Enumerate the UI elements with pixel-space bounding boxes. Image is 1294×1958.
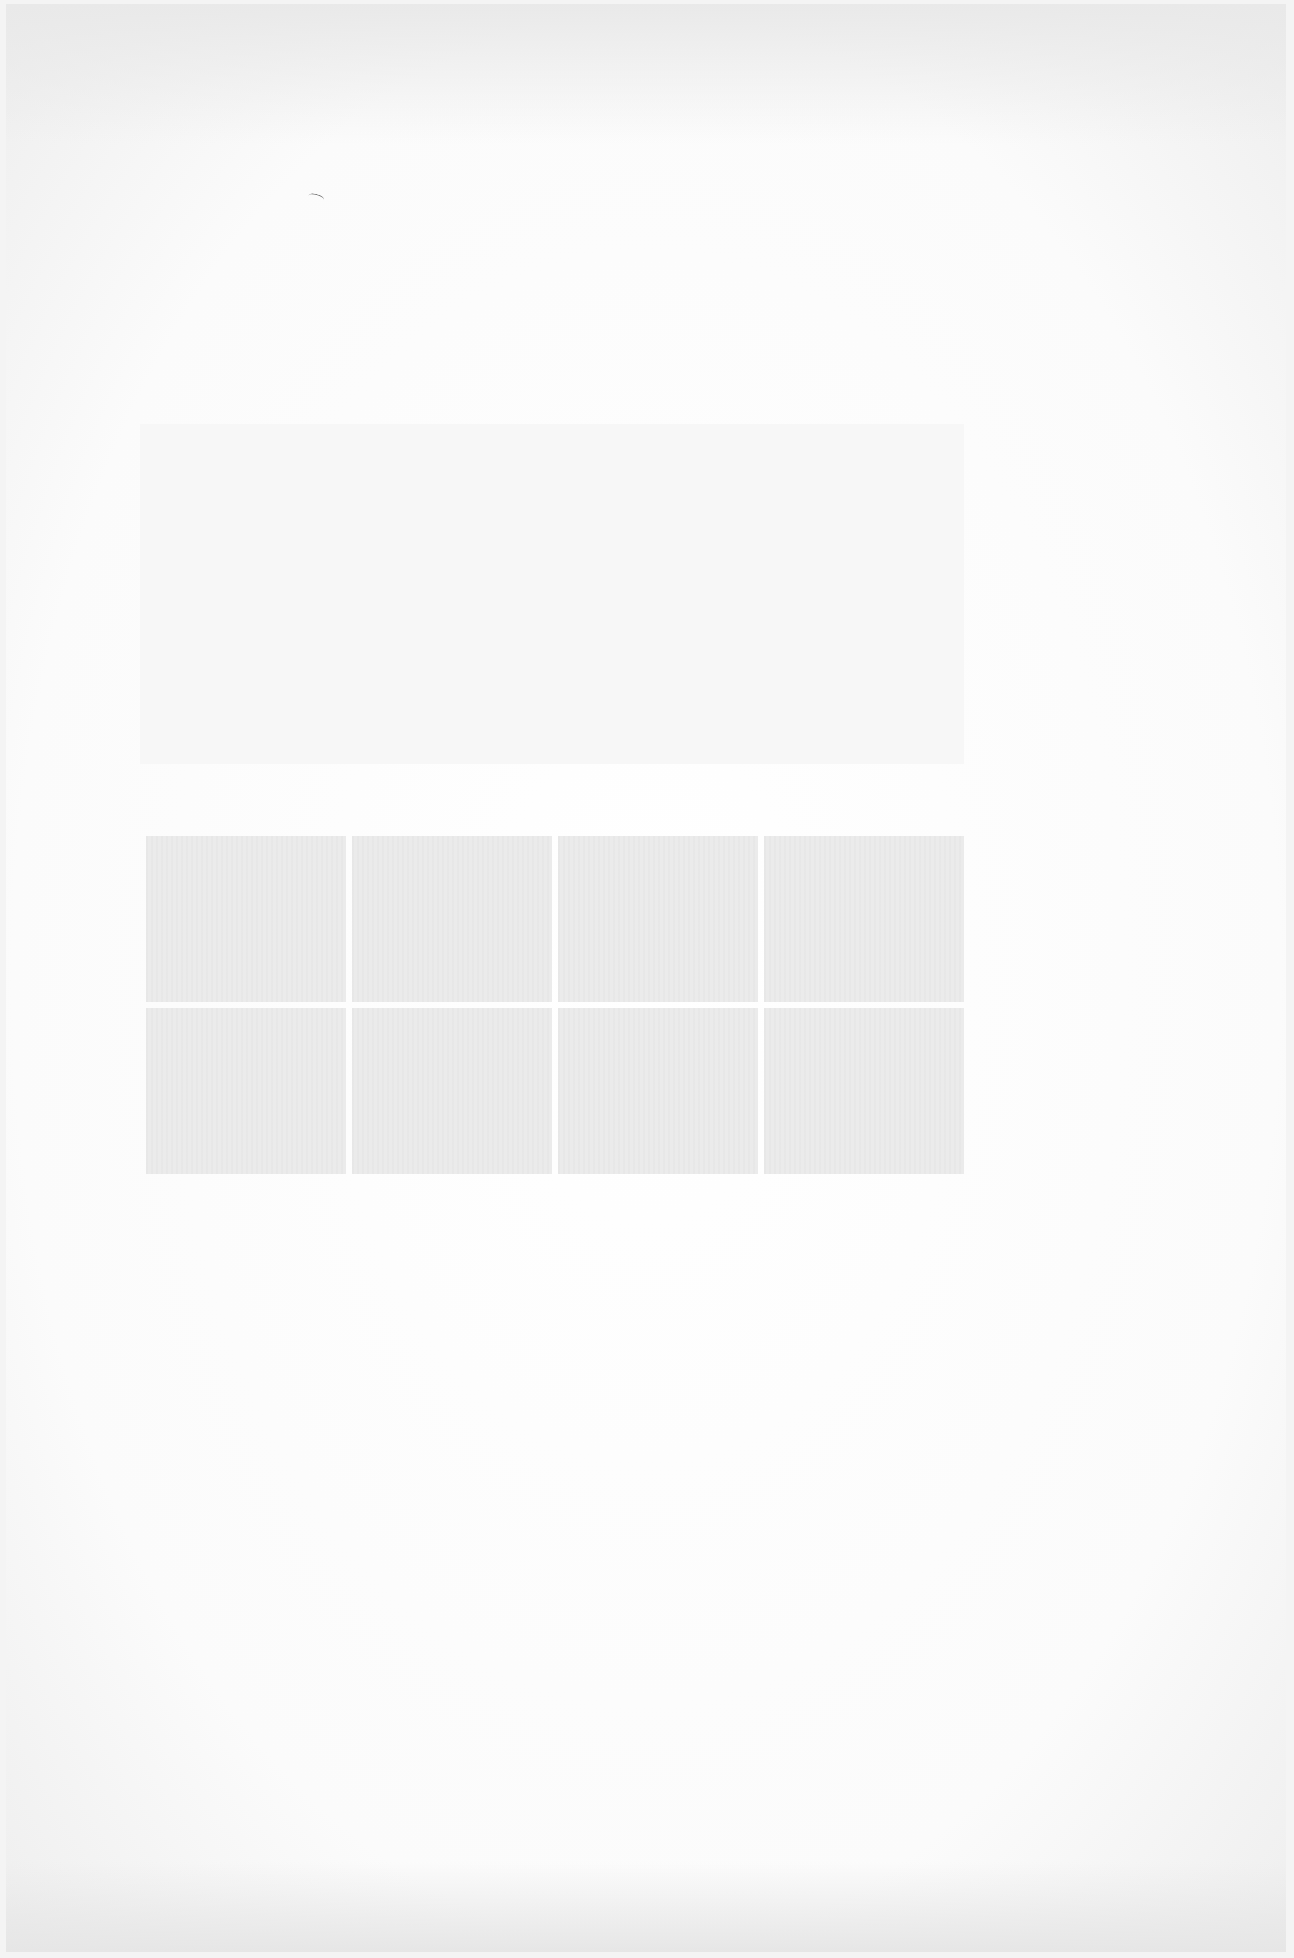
- stray-pen-mark: [307, 192, 324, 203]
- panel: [764, 836, 964, 1002]
- panel: [558, 836, 758, 1002]
- panel: [352, 1008, 552, 1174]
- panel: [352, 836, 552, 1002]
- scanned-page: [6, 4, 1286, 1952]
- panel: [558, 1008, 758, 1174]
- panel: [146, 1008, 346, 1174]
- panel-grid: [146, 836, 964, 1174]
- scan-shadow-top: [6, 4, 1286, 144]
- panel: [764, 1008, 964, 1174]
- upper-blank-block: [140, 424, 964, 764]
- panel: [146, 836, 346, 1002]
- scan-shadow-bottom: [6, 1862, 1286, 1952]
